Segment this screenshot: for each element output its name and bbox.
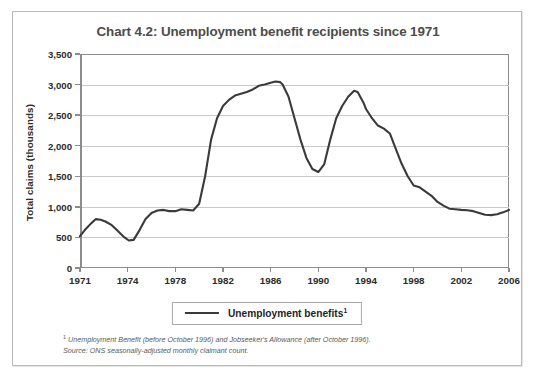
x-axis-tick-label: 1990 [307, 275, 329, 286]
y-axis-tick-label: 3,500 [48, 49, 72, 60]
y-axis-title: Total claims (thousands) [24, 104, 35, 221]
series-line-unemployment-benefits [80, 54, 509, 268]
x-axis-tick [318, 268, 320, 272]
chart-legend: Unemployment benefits1 [172, 302, 362, 325]
x-axis-tick [461, 268, 463, 272]
plot-area: 05001,0001,5002,0002,5003,0003,500 19711… [80, 54, 509, 268]
x-axis-tick-label: 1998 [403, 275, 425, 286]
legend-line-swatch [185, 312, 219, 315]
y-axis-tick-label: 0 [67, 263, 72, 274]
footnote-2-text: Source: ONS seasonally-adjusted monthly … [63, 346, 248, 355]
y-axis-tick-label: 1,000 [48, 201, 72, 212]
y-axis-tick-label: 2,000 [48, 140, 72, 151]
x-axis-tick-label: 2002 [450, 275, 472, 286]
x-axis-tick-label: 1986 [260, 275, 282, 286]
y-axis-tick-label: 2,500 [48, 110, 72, 121]
y-axis-tick-label: 500 [56, 232, 72, 243]
legend-item-label: Unemployment benefits1 [228, 307, 347, 319]
legend-footnote-marker: 1 [343, 307, 347, 314]
x-axis-tick-label: 1982 [212, 275, 234, 286]
x-axis-tick [127, 268, 129, 272]
x-axis-tick [413, 268, 415, 272]
x-axis-tick [508, 268, 510, 272]
x-axis-tick-label: 1994 [355, 275, 377, 286]
x-axis-tick-label: 2006 [498, 275, 520, 286]
y-axis-tick-label: 3,000 [48, 79, 72, 90]
x-axis-tick-label: 1978 [164, 275, 186, 286]
y-axis-tick-label: 1,500 [48, 171, 72, 182]
x-axis-tick-label: 1974 [117, 275, 139, 286]
footnote-1-text: Unemployment Benefit (before October 199… [68, 335, 371, 344]
footnote-line-2: Source: ONS seasonally-adjusted monthly … [63, 346, 493, 356]
x-axis-tick [365, 268, 367, 272]
footnote-marker: 1 [63, 334, 66, 340]
x-axis-tick [222, 268, 224, 272]
x-axis-tick-label: 1971 [69, 275, 91, 286]
footnote-line-1: 1 Unemployment Benefit (before October 1… [63, 334, 493, 346]
x-axis-tick [270, 268, 272, 272]
chart-figure: Chart 4.2: Unemployment benefit recipien… [12, 11, 522, 366]
legend-item-text: Unemployment benefits [228, 308, 343, 319]
x-axis-tick [175, 268, 177, 272]
footnotes: 1 Unemployment Benefit (before October 1… [63, 334, 493, 356]
page-title: Chart 4.2: Unemployment benefit recipien… [13, 24, 523, 39]
x-axis-tick [79, 268, 81, 272]
